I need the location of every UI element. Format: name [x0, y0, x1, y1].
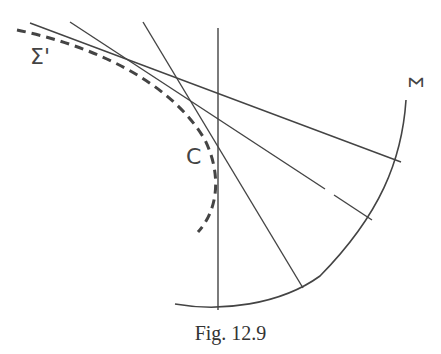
figure-caption: Fig. 12.9: [0, 322, 441, 345]
label-c: C: [186, 144, 201, 169]
label-sigma: Σ: [404, 76, 428, 89]
diagram-canvas: [0, 0, 441, 354]
normal-line-c: [143, 22, 303, 288]
label-sigma-prime: Σ': [30, 44, 50, 69]
normal-line-b-lower: [334, 195, 372, 220]
sigma-curve: [175, 100, 406, 307]
normal-line-a: [30, 23, 401, 162]
